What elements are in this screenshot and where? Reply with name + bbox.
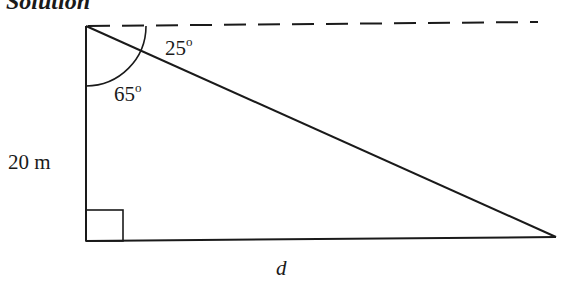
base-side	[86, 237, 556, 241]
triangle-figure	[0, 0, 567, 295]
diagram: Solution 25o 65o 20 m d	[0, 0, 567, 295]
angle-25-label: 25o	[165, 34, 193, 61]
base-label: d	[276, 256, 287, 281]
angle-arc	[86, 26, 146, 86]
angle-65-label: 65o	[114, 80, 142, 107]
height-label: 20 m	[8, 150, 51, 175]
horizontal-dashed-line	[88, 22, 538, 26]
hypotenuse	[86, 26, 556, 237]
right-angle-marker	[86, 210, 123, 241]
